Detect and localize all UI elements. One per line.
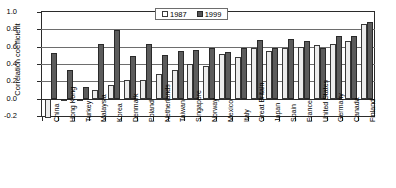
y-tick-label: 0.8 <box>0 25 17 33</box>
x-tick-label: Netherlands <box>164 84 172 122</box>
y-tick-label: 1.0 <box>0 8 17 16</box>
x-tick-label: Taiwan <box>179 100 187 122</box>
x-tick-label: United States <box>322 80 330 122</box>
x-tick-label: Norway <box>211 98 219 122</box>
correlation-coefficient-bar-chart: Correlation coefficient 1.00.80.60.40.20… <box>0 0 396 188</box>
y-tick-mark <box>37 29 41 30</box>
x-tick-label: Italy <box>243 109 251 122</box>
x-tick-label: Denmark <box>132 94 140 122</box>
bar-1999 <box>146 44 152 99</box>
bar-1999 <box>130 56 136 98</box>
x-tick-label: Great Britain <box>258 83 266 122</box>
bar-1999 <box>83 87 89 98</box>
y-tick-label: 0.6 <box>0 43 17 51</box>
legend-swatch-1999-icon <box>197 11 203 17</box>
legend-label-1987: 1987 <box>170 10 187 19</box>
chart-legend: 1987 1999 <box>155 8 228 20</box>
bar-1999 <box>304 41 310 98</box>
x-tick-label: Finland <box>369 99 377 122</box>
x-tick-label: Singapore <box>195 90 203 122</box>
x-tick-label: Canada <box>353 97 361 122</box>
x-tick-label: Malaysia <box>100 94 108 122</box>
legend-item-1999: 1999 <box>197 10 222 19</box>
x-tick-label: Germany <box>337 93 345 122</box>
x-tick-label: France <box>306 100 314 122</box>
bar-1999 <box>178 51 184 99</box>
bar-1987 <box>45 99 51 118</box>
bar-1999 <box>241 48 247 98</box>
x-tick-label: Spain <box>290 104 298 122</box>
x-tick-label: Turkey <box>85 101 93 122</box>
y-tick-mark <box>37 12 41 13</box>
bar-1999 <box>336 36 342 98</box>
bar-1999 <box>351 36 357 98</box>
y-tick-label: -0.2 <box>0 112 17 120</box>
y-tick-label: 0.2 <box>0 77 17 85</box>
y-tick-label: 0.4 <box>0 60 17 68</box>
legend-swatch-1987-icon <box>162 11 168 17</box>
y-tick-mark <box>37 81 41 82</box>
bar-1999 <box>367 22 373 98</box>
bar-1999 <box>209 48 215 98</box>
bar-1999 <box>225 52 231 99</box>
bar-1999 <box>114 30 120 98</box>
x-tick-label: Hong Kong <box>69 87 77 122</box>
x-tick-label: Korea <box>116 103 124 122</box>
x-tick-label: Poland <box>148 100 156 122</box>
legend-label-1999: 1999 <box>205 10 222 19</box>
x-tick-label: Mexico <box>227 100 235 122</box>
bar-1999 <box>51 53 57 99</box>
bar-group <box>42 12 58 116</box>
x-tick-label: China <box>53 104 61 122</box>
x-axis-labels: ChinaHong KongTurkeyMalaysiaKoreaDenmark… <box>42 120 374 186</box>
bar-1999 <box>272 48 278 98</box>
y-tick-label: 0.0 <box>0 95 17 103</box>
bar-group <box>279 12 295 116</box>
x-tick-label: Japan <box>274 103 282 122</box>
bar-1999 <box>98 44 104 99</box>
bar-1999 <box>288 39 294 99</box>
y-tick-mark <box>37 64 41 65</box>
legend-item-1987: 1987 <box>162 10 187 19</box>
y-tick-mark <box>37 116 41 117</box>
y-tick-mark <box>37 47 41 48</box>
